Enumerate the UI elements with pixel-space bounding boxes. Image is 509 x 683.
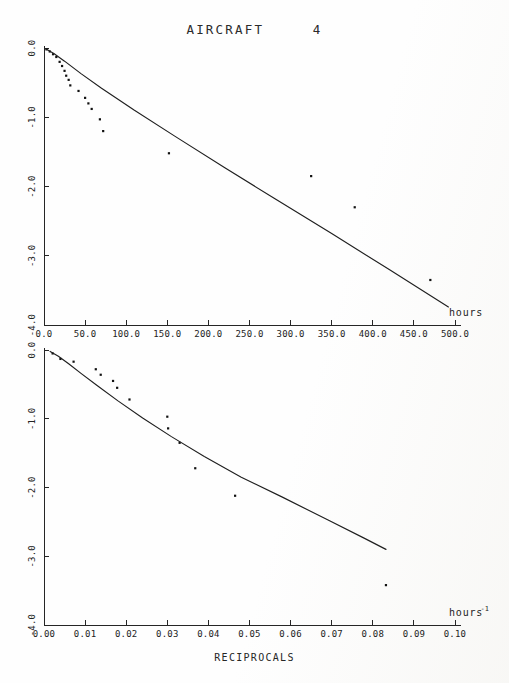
x-axis-tick-label: 500.0 [441, 329, 469, 339]
x-axis-tick-label: 200.0 [194, 329, 222, 339]
data-point [68, 79, 70, 81]
data-point [354, 206, 356, 208]
y-axis-tick-label: -1.0 [27, 408, 37, 430]
data-point [116, 387, 118, 389]
data-point [72, 361, 74, 363]
data-point [95, 368, 97, 370]
data-point [166, 416, 168, 418]
chart-top-canvas: 0.050.0100.0150.0200.0250.0300.0350.0400… [0, 38, 509, 338]
fitted-curve [50, 351, 386, 549]
data-point [99, 118, 101, 120]
data-point [167, 427, 169, 429]
x-axis-tick-label: 0.07 [320, 629, 342, 639]
data-point [77, 90, 79, 92]
data-point [91, 108, 93, 110]
data-point [65, 75, 67, 77]
y-axis-tick-label: -4.0 [27, 614, 37, 636]
y-axis-tick-label: -3.0 [27, 245, 37, 267]
x-axis-tick-label: 450.0 [400, 329, 428, 339]
data-point [128, 398, 130, 400]
y-axis-tick-label: -2.0 [27, 476, 37, 498]
x-axis-tick-label: 400.0 [359, 329, 387, 339]
y-axis-tick-label: -4.0 [27, 314, 37, 336]
data-point [194, 467, 196, 469]
data-point [102, 130, 104, 132]
fitted-curve [46, 49, 449, 307]
data-point [429, 279, 431, 281]
x-axis-tick-label: 350.0 [318, 329, 346, 339]
x-axis-tick-label: 0.04 [197, 629, 219, 639]
chart-top-hours: 0.050.0100.0150.0200.0250.0300.0350.0400… [0, 38, 509, 338]
data-point [87, 102, 89, 104]
y-axis-tick-label: 0.0 [27, 40, 37, 57]
x-axis-tick-label: 300.0 [277, 329, 305, 339]
data-point [168, 152, 170, 154]
chart-bottom-reciprocals: 0.000.010.020.030.040.050.060.070.080.09… [0, 340, 509, 640]
data-point [69, 84, 71, 86]
y-axis-tick-label: 0.0 [27, 342, 37, 359]
x-axis-tick-label: 100.0 [112, 329, 140, 339]
chart-bottom-canvas: 0.000.010.020.030.040.050.060.070.080.09… [0, 340, 509, 640]
x-axis-tick-label: 250.0 [235, 329, 263, 339]
x-axis-tick-label: 0.01 [74, 629, 96, 639]
x-axis-tick-label: 50.0 [74, 329, 96, 339]
x-axis-tick-label: 0.02 [115, 629, 137, 639]
x-axis-name-exponent: -1 [481, 605, 489, 613]
data-point [59, 61, 61, 63]
y-axis-tick-label: -2.0 [27, 175, 37, 197]
x-axis-tick-label: 0.08 [362, 629, 384, 639]
x-axis-name: hours [449, 307, 483, 318]
x-axis-tick-label: 150.0 [153, 329, 181, 339]
data-point [112, 380, 114, 382]
x-axis-caption: RECIPROCALS [0, 652, 509, 663]
x-axis-tick-label: 0.10 [444, 629, 466, 639]
y-axis-tick-label: -1.0 [27, 106, 37, 128]
data-point [310, 175, 312, 177]
data-point [61, 65, 63, 67]
data-point [385, 584, 387, 586]
page-title: AIRCRAFT 4 [0, 22, 509, 37]
x-axis-name: hours [449, 607, 483, 618]
x-axis-tick-label: 0.03 [156, 629, 178, 639]
data-point [63, 70, 65, 72]
x-axis-tick-label: 0.09 [403, 629, 425, 639]
data-point [100, 374, 102, 376]
y-axis-tick-label: -3.0 [27, 545, 37, 567]
x-axis-tick-label: 0.06 [279, 629, 301, 639]
data-point [234, 495, 236, 497]
x-axis-tick-label: 0.05 [238, 629, 260, 639]
data-point [84, 97, 86, 99]
x-axis-tick-label: 0.0 [36, 329, 53, 339]
